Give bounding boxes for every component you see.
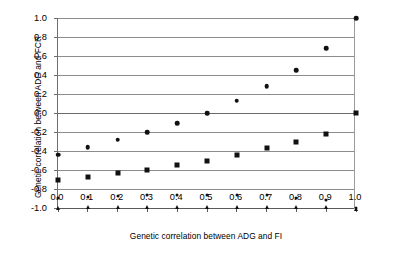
y-axis-tick-label: -0.6 — [0, 165, 47, 175]
data-point — [294, 140, 299, 145]
y-axis-tick — [54, 189, 58, 190]
y-axis-tick — [54, 113, 58, 114]
data-point — [354, 16, 359, 21]
x-axis-tick-label: 0.7 — [259, 192, 272, 202]
data-point — [86, 145, 91, 150]
y-axis-tick-label: 0.4 — [0, 70, 47, 80]
chart-figure: Genetic correlation between ADG and FCR … — [0, 0, 410, 255]
data-point — [56, 206, 60, 210]
data-point — [234, 152, 239, 157]
data-point — [56, 153, 61, 158]
gridline — [58, 132, 354, 133]
data-point — [324, 131, 329, 136]
data-point — [205, 205, 209, 209]
y-axis-tick — [54, 37, 58, 38]
x-axis-title: Genetic correlation between ADG and FI — [57, 231, 355, 241]
y-axis-tick-label: -1.0 — [0, 203, 47, 213]
gridline — [58, 56, 354, 57]
y-axis-tick — [54, 56, 58, 57]
data-point — [324, 46, 329, 51]
x-axis-tick-label: 0.2 — [110, 192, 123, 202]
y-axis-tick-label: 0.8 — [0, 32, 47, 42]
data-point — [264, 84, 269, 89]
x-axis-tick-label: 0.4 — [170, 192, 183, 202]
data-point — [354, 111, 359, 116]
y-axis-tick-label: 0.6 — [0, 51, 47, 61]
data-point — [264, 146, 269, 151]
data-point — [294, 205, 298, 209]
y-axis-tick-label: -0.4 — [0, 146, 47, 156]
y-axis-tick-label: -0.2 — [0, 127, 47, 137]
data-point — [175, 121, 180, 126]
data-point — [235, 98, 240, 103]
data-point — [175, 205, 179, 209]
data-point — [294, 68, 299, 73]
gridline — [58, 151, 354, 152]
x-axis-tick-label: 0.0 — [51, 192, 64, 202]
y-axis-tick — [54, 170, 58, 171]
data-point — [205, 111, 210, 116]
x-axis-tick-label: 0.9 — [319, 192, 332, 202]
x-axis-tick-label: 0.1 — [80, 192, 93, 202]
gridline — [58, 18, 354, 19]
plot-area — [57, 18, 355, 208]
y-axis-tick — [54, 18, 58, 19]
x-axis-tick-label: 0.8 — [289, 192, 302, 202]
gridline — [58, 37, 354, 38]
data-point — [324, 205, 328, 209]
y-axis-tick-label: -0.8 — [0, 184, 47, 194]
x-axis-tick-label: 0.3 — [140, 192, 153, 202]
data-point — [145, 205, 149, 209]
data-point — [235, 205, 239, 209]
data-point — [145, 130, 150, 135]
y-axis-tick — [54, 132, 58, 133]
gridline — [58, 189, 354, 190]
data-point — [205, 158, 210, 163]
data-point — [115, 170, 120, 175]
data-point — [85, 174, 90, 179]
x-axis-tick-label: 1.0 — [349, 192, 362, 202]
y-axis-tick-label: 1.0 — [0, 13, 47, 23]
y-axis-tick — [54, 94, 58, 95]
data-point — [56, 177, 61, 182]
data-point — [115, 137, 120, 142]
data-point — [86, 205, 90, 209]
y-axis-tick-label: 0.0 — [0, 108, 47, 118]
gridline — [58, 170, 354, 171]
y-axis-tick — [54, 151, 58, 152]
data-point — [265, 205, 269, 209]
data-point — [354, 207, 358, 211]
x-axis-tick-label: 0.6 — [229, 192, 242, 202]
data-point — [145, 168, 150, 173]
y-axis-tick-label: 0.2 — [0, 89, 47, 99]
gridline — [58, 94, 354, 95]
data-point — [116, 205, 120, 209]
data-point — [175, 163, 180, 168]
gridline — [58, 75, 354, 76]
x-axis-tick-label: 0.5 — [200, 192, 213, 202]
y-axis-tick — [54, 75, 58, 76]
